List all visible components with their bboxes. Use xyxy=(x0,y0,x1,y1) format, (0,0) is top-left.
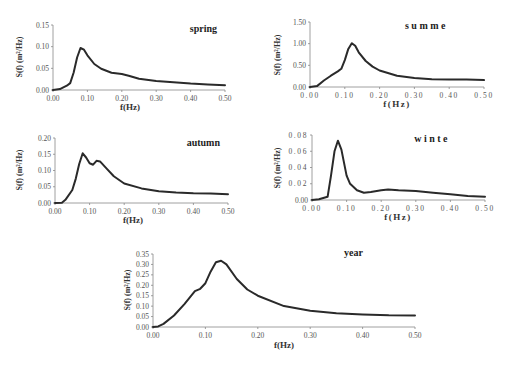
x-tick-label: 0.00 xyxy=(300,91,320,100)
x-tick-label: 0.30 xyxy=(150,94,163,103)
x-tick-label: 0.00 xyxy=(146,331,159,340)
x-tick-label: 0.30 xyxy=(304,331,317,340)
y-axis-label: S(f) (m²/Hz) xyxy=(273,34,282,75)
y-tick-label: 0.25 xyxy=(136,270,149,279)
x-tick-label: 0.10 xyxy=(83,207,96,216)
y-axis-label: S(f) (m²/Hz) xyxy=(123,269,132,310)
x-axis-label: f(Hz) xyxy=(383,99,411,109)
y-axis-label: S(f) (m²/Hz) xyxy=(273,147,282,188)
x-tick-label: 0.50 xyxy=(218,94,231,103)
summer-title: summe xyxy=(405,20,448,31)
y-tick-label: 0.50 xyxy=(293,61,306,70)
y-tick-label: 0.04 xyxy=(288,163,308,172)
y-tick-label: 0.10 xyxy=(136,302,149,311)
y-tick-label: 0.05 xyxy=(36,64,49,73)
y-tick-label: 0.05 xyxy=(38,182,51,191)
x-axis-label: f(Hz) xyxy=(274,340,294,350)
x-axis-label: f(Hz) xyxy=(123,215,143,225)
y-tick-label: 0.20 xyxy=(38,134,51,143)
x-tick-label: 0.40 xyxy=(441,204,461,213)
autumn-spectrum-line xyxy=(55,153,228,203)
x-tick-label: 0.40 xyxy=(187,207,200,216)
x-tick-label: 0.00 xyxy=(302,204,322,213)
autumn-title: autumn xyxy=(187,137,221,148)
x-tick-label: 0.40 xyxy=(439,91,459,100)
y-tick-label: 0.15 xyxy=(36,21,49,30)
y-tick-label: 0.35 xyxy=(136,250,149,259)
winter-panel: 0.000.020.040.060.080.000.100.200.300.40… xyxy=(273,131,495,223)
y-tick-label: 1.50 xyxy=(293,18,306,27)
x-tick-label: 0.50 xyxy=(475,204,495,213)
x-tick-label: 0.00 xyxy=(46,94,59,103)
winter-title: winte xyxy=(414,133,450,144)
x-tick-label: 0.10 xyxy=(337,204,357,213)
y-tick-label: 0.30 xyxy=(136,260,149,269)
y-tick-label: 0.02 xyxy=(288,179,308,188)
y-tick-label: 0.20 xyxy=(136,281,149,290)
summer-spectrum-line xyxy=(310,43,484,87)
x-tick-label: 0.50 xyxy=(221,207,234,216)
x-tick-label: 0.10 xyxy=(81,94,94,103)
y-tick-label: 0.10 xyxy=(38,166,51,175)
x-tick-label: 0.50 xyxy=(474,91,494,100)
x-tick-label: 0.10 xyxy=(199,331,212,340)
y-tick-label: 0.05 xyxy=(136,312,149,321)
year-spectrum-line xyxy=(153,261,415,327)
x-tick-label: 0.40 xyxy=(184,94,197,103)
y-tick-label: 0.15 xyxy=(38,150,51,159)
x-tick-label: 0.20 xyxy=(251,331,264,340)
y-axis-label: S(f) (m²/Hz) xyxy=(15,149,24,190)
year-title: year xyxy=(344,247,363,258)
year-panel: 0.000.050.100.150.200.250.300.350.000.10… xyxy=(123,247,422,350)
x-tick-label: 0.40 xyxy=(356,331,369,340)
y-axis-label: S(f) (m²/Hz) xyxy=(15,36,24,77)
winter-spectrum-line xyxy=(312,141,485,200)
x-tick-label: 0.10 xyxy=(335,91,355,100)
seasonal-spectra-figure: 0.000.050.100.150.000.100.200.300.400.50… xyxy=(0,0,514,366)
x-tick-label: 0.30 xyxy=(152,207,165,216)
y-tick-label: 0.10 xyxy=(36,42,49,51)
y-tick-label: 0.08 xyxy=(288,131,308,140)
x-axis-label: f(Hz) xyxy=(384,212,412,222)
x-tick-label: 0.50 xyxy=(408,331,421,340)
y-tick-label: 0.15 xyxy=(136,291,149,300)
spring-title: spring xyxy=(190,23,217,34)
autumn-panel: 0.000.050.100.150.200.000.100.200.300.40… xyxy=(15,134,235,226)
y-tick-label: 1.00 xyxy=(293,39,306,48)
spring-panel: 0.000.050.100.150.000.100.200.300.400.50… xyxy=(15,21,232,113)
spring-spectrum-line xyxy=(53,48,225,90)
x-tick-label: 0.00 xyxy=(48,207,61,216)
x-axis-label: f(Hz) xyxy=(120,102,140,112)
y-tick-label: 0.06 xyxy=(288,147,308,156)
summer-panel: 0.000.501.001.500.000.100.200.300.400.50… xyxy=(273,18,494,110)
